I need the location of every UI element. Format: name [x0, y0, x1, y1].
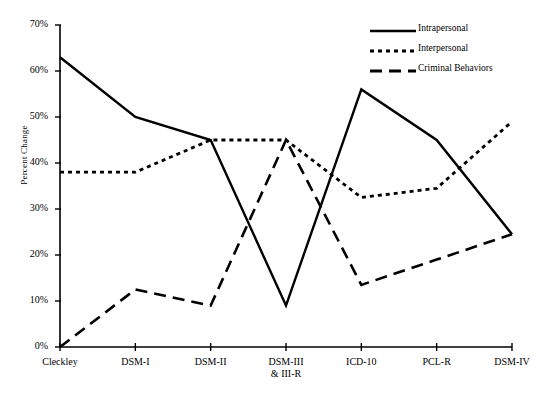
chart-legend: IntrapersonalInterpersonalCriminal Behav… [370, 18, 493, 78]
legend-label: Criminal Behaviors [418, 58, 493, 78]
series-line-interpersonal [60, 122, 512, 198]
legend-item-interpersonal: Interpersonal [370, 38, 493, 58]
x-tick-label: DSM-IV [457, 356, 536, 368]
y-tick-label: 40% [8, 157, 48, 167]
data-series-group [60, 57, 512, 347]
y-tick-label: 50% [8, 111, 48, 121]
legend-item-criminal-behaviors: Criminal Behaviors [370, 58, 493, 78]
y-tick-label: 30% [8, 203, 48, 213]
percent-change-line-chart: Percent Change 0%10%20%30%40%50%60%70% C… [0, 0, 536, 396]
x-tick-label-line2: & III-R [231, 368, 341, 380]
y-tick-label: 60% [8, 65, 48, 75]
series-line-intrapersonal [60, 57, 512, 305]
y-tick-label: 70% [8, 19, 48, 29]
y-tick-label: 10% [8, 295, 48, 305]
y-tick-label: 0% [8, 341, 48, 351]
y-tick-label: 20% [8, 249, 48, 259]
legend-swatch-dashed-icon [370, 63, 416, 73]
legend-label: Interpersonal [418, 38, 468, 58]
legend-swatch-solid-icon [370, 23, 416, 33]
legend-item-intrapersonal: Intrapersonal [370, 18, 493, 38]
legend-label: Intrapersonal [418, 18, 468, 38]
legend-swatch-dotted-icon [370, 43, 416, 53]
